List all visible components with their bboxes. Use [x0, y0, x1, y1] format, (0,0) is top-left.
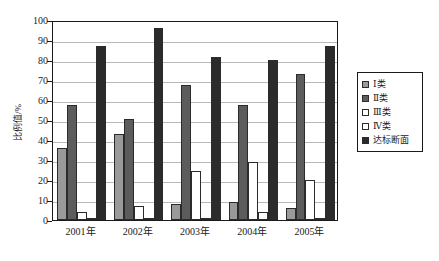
bar [238, 105, 248, 220]
legend-item-label: Ⅳ类 [373, 122, 391, 131]
plot-area [52, 21, 338, 221]
y-axis-tick-label: 70 [4, 76, 48, 86]
legend-swatch-icon [362, 123, 369, 130]
y-axis-tick-label: 20 [4, 176, 48, 186]
legend-item: Ⅳ类 [362, 119, 418, 133]
bar [305, 180, 315, 220]
legend-swatch-icon [362, 81, 369, 88]
bar [57, 148, 67, 220]
legend-swatch-icon [362, 137, 369, 144]
bar [96, 46, 106, 220]
bar [114, 134, 124, 220]
bar [211, 57, 221, 220]
legend-item-label: 达标断面 [373, 136, 409, 145]
bar [77, 212, 87, 220]
bar [124, 119, 134, 220]
bar [286, 208, 296, 220]
x-axis-tick-labels: 2001年2002年2003年2004年2005年 [52, 226, 338, 242]
bar [248, 162, 258, 220]
legend-swatch-icon [362, 95, 369, 102]
y-axis-tick-label: 30 [4, 156, 48, 166]
bar [134, 206, 144, 220]
bar [181, 85, 191, 220]
y-axis-tick [47, 221, 52, 222]
bar [154, 28, 164, 220]
bar [325, 46, 335, 220]
bar [296, 74, 306, 220]
bar [268, 60, 278, 220]
legend-item: Ⅲ类 [362, 105, 418, 119]
y-axis-tick-label: 0 [4, 216, 48, 226]
chart-figure: 比例值/% 0102030405060708090100 2001年2002年2… [0, 0, 439, 261]
y-axis-tick-label: 50 [4, 116, 48, 126]
y-axis-tick-label: 40 [4, 136, 48, 146]
bar [258, 212, 268, 220]
y-axis: 比例值/% 0102030405060708090100 [0, 21, 48, 221]
bar [87, 218, 97, 220]
x-axis-tick-label: 2003年 [166, 226, 223, 238]
x-axis-tick-label: 2001年 [52, 226, 109, 238]
chart-legend: Ⅰ类Ⅱ类Ⅲ类Ⅳ类达标断面 [357, 72, 423, 152]
legend-item-label: Ⅰ类 [373, 80, 386, 89]
legend-item: Ⅰ类 [362, 77, 418, 91]
bar [171, 204, 181, 220]
x-axis-tick-label: 2002年 [109, 226, 166, 238]
y-axis-tick-label: 60 [4, 96, 48, 106]
bar [315, 218, 325, 220]
bar [144, 218, 154, 220]
bar [229, 202, 239, 220]
legend-item: 达标断面 [362, 133, 418, 147]
x-axis-tick-label: 2005年 [281, 226, 338, 238]
bar [67, 105, 77, 220]
y-axis-tick-label: 100 [4, 16, 48, 26]
legend-item-label: Ⅱ类 [373, 94, 388, 103]
y-axis-tick-label: 10 [4, 196, 48, 206]
legend-item-label: Ⅲ类 [373, 108, 391, 117]
x-axis-tick-label: 2004年 [224, 226, 281, 238]
bar [191, 171, 201, 220]
y-axis-tick-label: 80 [4, 56, 48, 66]
bar-series-group [53, 22, 337, 220]
y-axis-tick-label: 90 [4, 36, 48, 46]
legend-item: Ⅱ类 [362, 91, 418, 105]
legend-swatch-icon [362, 109, 369, 116]
bar [201, 218, 211, 220]
